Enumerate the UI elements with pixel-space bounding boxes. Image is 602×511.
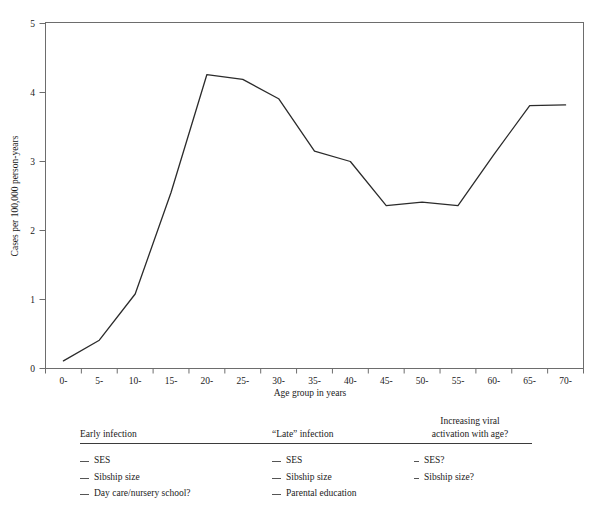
x-tick-label-1: 5-: [95, 376, 103, 386]
blank-line-icon: [80, 487, 89, 495]
plot-frame: [46, 23, 584, 369]
chart-svg: 0 1 2 3 4 5 Cases per 100,000 person-yea…: [0, 0, 602, 405]
list-item-label: Sibship size: [286, 469, 332, 486]
y-tick-label-0: 0: [30, 364, 35, 374]
blank-line-icon: [272, 487, 281, 495]
x-tick-label-13: 65-: [523, 376, 536, 386]
x-tick-label-8: 40-: [344, 376, 357, 386]
blank-line-icon: [80, 454, 89, 462]
x-tick-label-0: 0-: [59, 376, 67, 386]
table-items-viral-activation: SES? Sibship size?: [408, 452, 532, 502]
y-tick-label-2: 2: [30, 226, 35, 236]
blank-line-icon: [272, 471, 281, 479]
x-tick-label-5: 25-: [236, 376, 249, 386]
blank-line-icon: [414, 471, 419, 479]
table-header-rule: [80, 443, 532, 444]
table-column-viral-activation: Increasing viral activation with age?: [408, 416, 532, 442]
list-item-label: Sibship size: [94, 469, 140, 486]
blank-line-icon: [414, 454, 419, 462]
x-axis-title: Age group in years: [274, 388, 347, 398]
list-item-label: SES: [286, 452, 302, 469]
list-item-label: Sibship size?: [424, 469, 474, 486]
y-axis-tick-labels: 0 1 2 3 4 5: [30, 19, 35, 374]
list-item: Sibship size: [80, 469, 272, 486]
y-axis-ticks: [40, 24, 46, 369]
incidence-by-age-chart: 0 1 2 3 4 5 Cases per 100,000 person-yea…: [0, 0, 602, 405]
list-item: SES: [272, 452, 408, 469]
x-tick-label-3: 15-: [165, 376, 178, 386]
y-axis-title: Cases per 100,000 person-years: [10, 135, 20, 256]
column-header-viral-activation-line1: Increasing viral: [408, 416, 532, 429]
column-header-viral-activation-line2: activation with age?: [408, 429, 532, 442]
list-item: SES?: [408, 452, 532, 469]
x-tick-label-6: 30-: [272, 376, 285, 386]
list-item-label: SES?: [424, 452, 445, 469]
x-tick-label-11: 55-: [452, 376, 465, 386]
y-tick-label-5: 5: [30, 19, 35, 29]
list-item-label: Day care/nursery school?: [94, 485, 191, 502]
column-header-late-infection: “Late” infection: [272, 429, 408, 442]
table-header-row: Early infection “Late” infection Increas…: [80, 406, 532, 442]
x-tick-label-9: 45-: [380, 376, 393, 386]
table-items-late-infection: SES Sibship size Parental education: [272, 452, 408, 502]
y-tick-label-1: 1: [30, 295, 35, 305]
list-item-label: Parental education: [286, 485, 356, 502]
table-column-late-infection: “Late” infection: [272, 429, 408, 442]
x-tick-label-4: 20-: [201, 376, 214, 386]
list-item: Sibship size?: [408, 469, 532, 486]
y-tick-label-4: 4: [30, 88, 35, 98]
x-tick-label-7: 35-: [308, 376, 321, 386]
column-header-early-infection: Early infection: [80, 429, 272, 442]
risk-factor-table: Early infection “Late” infection Increas…: [80, 406, 532, 508]
list-item: Parental education: [272, 485, 408, 502]
plot-area-border: [46, 23, 584, 369]
blank-line-icon: [80, 471, 89, 479]
table-body-row: SES Sibship size Day care/nursery school…: [80, 452, 532, 502]
blank-line-icon: [272, 454, 281, 462]
x-tick-label-10: 50-: [416, 376, 429, 386]
list-item-label: SES: [94, 452, 110, 469]
table-items-early-infection: SES Sibship size Day care/nursery school…: [80, 452, 272, 502]
x-axis-tick-labels: 0-5-10-15-20-25-30-35-40-45-50-55-60-65-…: [59, 376, 571, 386]
y-tick-label-3: 3: [30, 157, 35, 167]
list-item: Sibship size: [272, 469, 408, 486]
x-tick-label-12: 60-: [487, 376, 500, 386]
list-item: Day care/nursery school?: [80, 485, 272, 502]
table-column-early-infection: Early infection: [80, 429, 272, 442]
list-item: SES: [80, 452, 272, 469]
x-tick-label-2: 10-: [129, 376, 142, 386]
x-tick-label-14: 70-: [559, 376, 572, 386]
x-axis-ticks: [46, 369, 584, 374]
